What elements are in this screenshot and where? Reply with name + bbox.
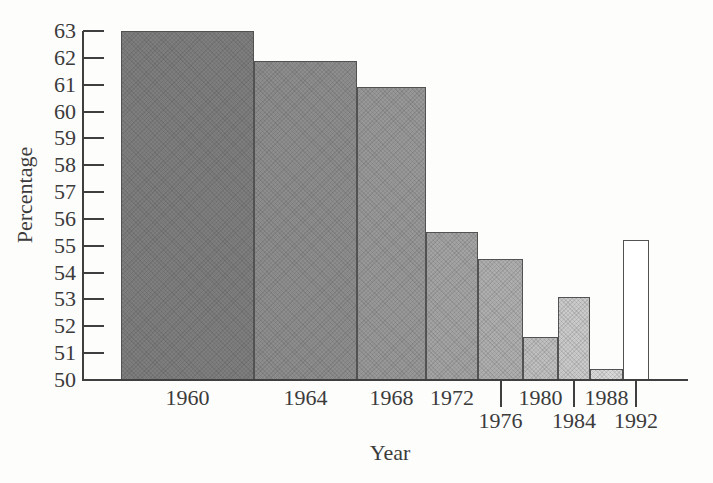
y-tick-61	[83, 84, 104, 86]
bar-1960	[121, 31, 254, 380]
y-tick-label-55: 55	[32, 235, 76, 257]
x-label-1964: 1964	[274, 387, 338, 409]
y-tick-label-63: 63	[32, 20, 76, 42]
x-label-1984: 1984	[542, 410, 606, 432]
bar-1992	[623, 240, 649, 380]
y-tick-label-50: 50	[32, 369, 76, 391]
y-tick-label-53: 53	[32, 288, 76, 310]
leader-tick-1992	[635, 380, 637, 407]
y-tick-56	[83, 218, 104, 220]
bar-chart-figure: Percentage Year 196019641968197219761980…	[0, 0, 713, 483]
y-tick-label-56: 56	[32, 208, 76, 230]
x-label-1976: 1976	[469, 410, 533, 432]
bar-1984	[558, 297, 590, 380]
y-tick-60	[83, 111, 104, 113]
y-tick-57	[83, 191, 104, 193]
y-tick-54	[83, 272, 104, 274]
y-tick-label-60: 60	[32, 101, 76, 123]
bar-1980	[523, 337, 558, 380]
y-tick-label-59: 59	[32, 127, 76, 149]
y-tick-label-54: 54	[32, 262, 76, 284]
x-axis-title: Year	[340, 441, 440, 465]
y-tick-label-51: 51	[32, 342, 76, 364]
y-tick-label-62: 62	[32, 47, 76, 69]
bar-1976	[478, 259, 523, 380]
x-label-1960: 1960	[156, 387, 220, 409]
y-tick-53	[83, 298, 104, 300]
x-label-1992: 1992	[604, 410, 668, 432]
y-axis-line	[82, 31, 84, 381]
y-tick-label-58: 58	[32, 154, 76, 176]
y-tick-58	[83, 164, 104, 166]
y-tick-55	[83, 245, 104, 247]
y-tick-label-57: 57	[32, 181, 76, 203]
bar-1968	[357, 87, 426, 380]
y-tick-52	[83, 325, 104, 327]
y-tick-label-52: 52	[32, 315, 76, 337]
bar-1964	[254, 61, 357, 380]
y-tick-label-61: 61	[32, 74, 76, 96]
x-label-1988: 1988	[575, 387, 639, 409]
y-tick-59	[83, 137, 104, 139]
x-label-1972: 1972	[420, 387, 484, 409]
x-label-1968: 1968	[360, 387, 424, 409]
y-tick-51	[83, 352, 104, 354]
y-tick-62	[83, 57, 104, 59]
x-axis-line	[82, 379, 688, 381]
leader-tick-1976	[500, 380, 502, 407]
y-tick-63	[83, 30, 104, 32]
x-label-1980: 1980	[509, 387, 573, 409]
bar-1972	[426, 232, 478, 380]
